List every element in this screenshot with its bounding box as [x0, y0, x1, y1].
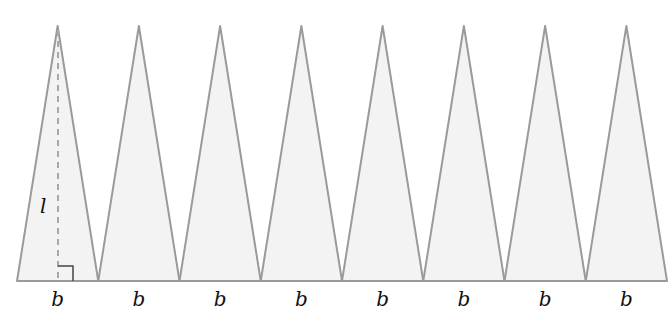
height-label: l — [40, 194, 46, 218]
triangle — [342, 26, 423, 281]
base-label: b — [295, 287, 308, 311]
triangles-group — [17, 26, 667, 281]
triangles-diagram: l bbbbbbbb — [0, 0, 668, 318]
triangle — [98, 26, 179, 281]
base-label: b — [214, 287, 227, 311]
base-labels-group: bbbbbbbb — [51, 287, 633, 311]
base-label: b — [457, 287, 470, 311]
base-label: b — [539, 287, 552, 311]
triangle — [261, 26, 342, 281]
triangle — [586, 26, 667, 281]
triangle — [180, 26, 261, 281]
base-label: b — [51, 287, 64, 311]
base-label: b — [620, 287, 633, 311]
base-label: b — [132, 287, 145, 311]
triangle — [505, 26, 586, 281]
base-label: b — [376, 287, 389, 311]
triangle — [423, 26, 504, 281]
